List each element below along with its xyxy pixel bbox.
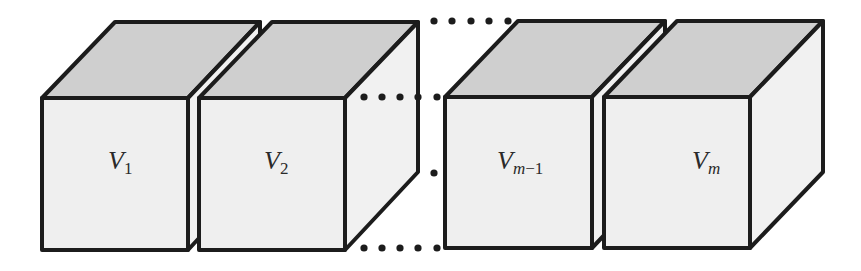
cube-row-diagram bbox=[0, 0, 861, 271]
vertical-dot bbox=[430, 169, 437, 176]
label-v2-main: V bbox=[264, 146, 280, 175]
top-dots-row bbox=[430, 17, 511, 24]
label-vm-minus-1-sub-rest: −1 bbox=[525, 159, 543, 178]
label-v2-sub: 2 bbox=[280, 159, 289, 178]
bottom-dots-row bbox=[360, 244, 440, 251]
label-vm-minus-1: Vm−1 bbox=[497, 148, 543, 177]
label-v1-sub: 1 bbox=[124, 159, 133, 178]
label-v2: V2 bbox=[264, 148, 288, 177]
label-v1-main: V bbox=[108, 146, 124, 175]
label-vm-minus-1-sub: m−1 bbox=[513, 159, 543, 178]
cube-vm-front-face bbox=[604, 97, 750, 248]
label-vm-minus-1-main: V bbox=[497, 146, 513, 175]
label-vm-sub: m bbox=[708, 159, 720, 178]
label-vm-main: V bbox=[692, 146, 708, 175]
label-vm: Vm bbox=[692, 148, 720, 177]
label-vm-minus-1-sub-m: m bbox=[513, 159, 525, 178]
label-v1: V1 bbox=[108, 148, 132, 177]
